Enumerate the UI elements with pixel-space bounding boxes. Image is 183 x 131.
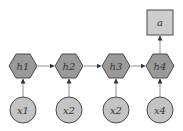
output-node-a: a [147,10,173,35]
hidden-label: h1 [17,61,30,72]
hidden-node-h3: h3 [102,54,130,78]
hidden-label: h3 [110,61,123,72]
hidden-node-h4: h4 [146,54,174,78]
input-node-x1: x1 [10,97,36,123]
input-node-x2-second: x2 [103,97,129,123]
input-label: x2 [63,105,75,116]
input-label: x2 [110,105,122,116]
rnn-diagram: a h1 h2 h3 h4 x1 x2 x2 x4 [0,0,183,131]
output-label: a [157,17,163,28]
hidden-node-h2: h2 [55,54,83,78]
hidden-label: h4 [154,61,167,72]
input-label: x1 [17,105,29,116]
input-label: x4 [154,105,166,116]
hidden-label: h2 [63,61,76,72]
input-node-x4: x4 [147,97,173,123]
input-node-x2: x2 [56,97,82,123]
hidden-node-h1: h1 [9,54,37,78]
